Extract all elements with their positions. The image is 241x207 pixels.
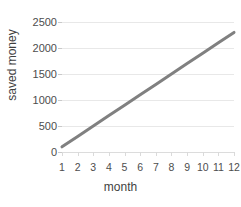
x-tick-label: 10: [197, 162, 209, 173]
x-tick-mark: [218, 152, 219, 156]
x-axis-tick-labels: 123456789101112: [0, 162, 241, 176]
series-line: [62, 32, 234, 146]
line-chart: saved money 05001000150020002500 1234567…: [0, 0, 241, 207]
x-tick-mark: [93, 152, 94, 156]
x-tick-label: 1: [59, 162, 65, 173]
x-tick-mark: [62, 152, 63, 156]
data-series-line: [62, 22, 234, 152]
x-tick-label: 9: [184, 162, 190, 173]
x-tick-label: 6: [137, 162, 143, 173]
x-tick-mark: [187, 152, 188, 156]
y-tick-label: 2000: [33, 43, 57, 54]
x-axis-title: month: [0, 180, 241, 194]
x-tick-label: 5: [122, 162, 128, 173]
y-tick-label: 2500: [33, 17, 57, 28]
x-tick-label: 7: [153, 162, 159, 173]
x-tick-mark: [78, 152, 79, 156]
y-tick-label: 1000: [33, 95, 57, 106]
x-tick-label: 8: [169, 162, 175, 173]
x-tick-mark: [109, 152, 110, 156]
x-tick-mark: [156, 152, 157, 156]
x-tick-label: 4: [106, 162, 112, 173]
x-tick-mark: [234, 152, 235, 156]
plot-area: [62, 22, 234, 152]
x-tick-mark: [171, 152, 172, 156]
x-tick-label: 3: [90, 162, 96, 173]
x-tick-mark: [203, 152, 204, 156]
y-tick-label: 500: [39, 121, 57, 132]
x-tick-mark: [125, 152, 126, 156]
y-tick-label: 0: [51, 147, 57, 158]
y-tick-label: 1500: [33, 69, 57, 80]
x-tick-label: 11: [213, 162, 224, 173]
x-tick-label: 12: [228, 162, 240, 173]
x-tick-mark: [140, 152, 141, 156]
axis-baseline: [62, 152, 234, 153]
x-tick-label: 2: [75, 162, 81, 173]
